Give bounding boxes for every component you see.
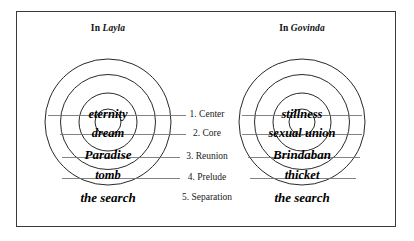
heading-right: In Govinda bbox=[279, 24, 325, 34]
stage-label-2: 2. Core bbox=[193, 129, 221, 139]
heading-right-name: Govinda bbox=[291, 23, 325, 33]
right-term-reunion: Brindaban bbox=[273, 148, 331, 161]
left-term-separation: the search bbox=[80, 191, 135, 204]
stage-label-5: 5. Separation bbox=[182, 193, 232, 203]
right-term-prelude: thicket bbox=[285, 169, 320, 182]
right-term-separation: the search bbox=[274, 191, 329, 204]
stage-label-1: 1. Center bbox=[190, 110, 225, 120]
heading-right-prefix: In bbox=[279, 23, 291, 33]
diagram-artwork bbox=[0, 0, 414, 241]
heading-left-prefix: In bbox=[91, 23, 103, 33]
figure-root: In Layla In Govinda eternity dream Parad… bbox=[0, 0, 414, 241]
left-term-prelude: tomb bbox=[95, 169, 121, 182]
heading-left: In Layla bbox=[91, 24, 125, 34]
right-term-core: sexual union bbox=[268, 127, 335, 140]
right-ring-outer bbox=[239, 59, 365, 185]
left-ring-outer bbox=[45, 59, 171, 185]
heading-left-name: Layla bbox=[102, 23, 125, 33]
right-term-center: stillness bbox=[282, 108, 323, 121]
left-term-core: dream bbox=[92, 127, 125, 140]
stage-label-4: 4. Prelude bbox=[188, 173, 227, 183]
left-term-reunion: Paradise bbox=[85, 148, 132, 161]
left-ring-second bbox=[79, 93, 137, 151]
stage-label-3: 3. Reunion bbox=[186, 152, 228, 162]
right-ring-second bbox=[273, 93, 331, 151]
left-term-center: eternity bbox=[89, 108, 128, 121]
